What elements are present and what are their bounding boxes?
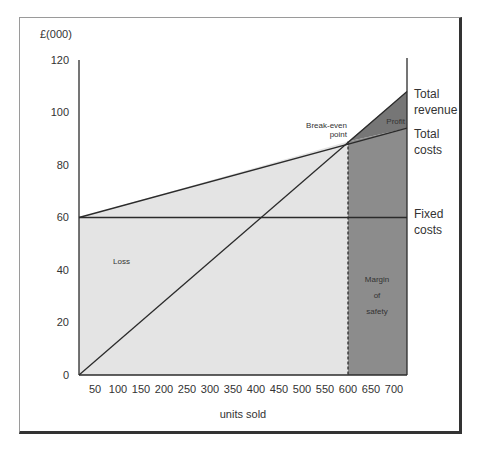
svg-text:200: 200: [155, 383, 173, 395]
break-even-point-label: Break-even point: [306, 121, 348, 139]
svg-text:Fixed: Fixed: [414, 207, 443, 221]
svg-text:150: 150: [132, 383, 150, 395]
x-axis-label: units sold: [220, 408, 266, 420]
svg-text:650: 650: [362, 383, 380, 395]
svg-text:Total: Total: [414, 87, 439, 101]
svg-text:costs: costs: [414, 223, 442, 237]
svg-text:250: 250: [178, 383, 196, 395]
svg-text:40: 40: [57, 264, 69, 276]
total-revenue-label: Total revenue: [414, 87, 458, 117]
svg-text:700: 700: [385, 383, 403, 395]
svg-text:550: 550: [316, 383, 334, 395]
svg-text:450: 450: [270, 383, 288, 395]
svg-text:60: 60: [57, 211, 69, 223]
svg-text:20: 20: [57, 316, 69, 328]
svg-text:500: 500: [293, 383, 311, 395]
margin-of-safety-region: [348, 128, 407, 375]
svg-text:600: 600: [339, 383, 357, 395]
x-tick-labels: 50 100 150 200 250 300 350 400 450 500 5…: [89, 383, 403, 395]
svg-text:50: 50: [89, 383, 101, 395]
svg-text:of: of: [374, 291, 381, 300]
svg-text:revenue: revenue: [414, 103, 458, 117]
y-tick-labels: 120 100 80 60 40 20 0: [51, 54, 69, 381]
profit-label: Profit: [386, 117, 405, 126]
svg-text:Margin: Margin: [365, 275, 389, 284]
svg-text:0: 0: [63, 369, 69, 381]
loss-label: Loss: [113, 257, 130, 266]
svg-text:400: 400: [247, 383, 265, 395]
svg-text:100: 100: [109, 383, 127, 395]
total-costs-label: Total costs: [414, 127, 442, 157]
svg-text:120: 120: [51, 54, 69, 66]
svg-text:300: 300: [201, 383, 219, 395]
svg-text:80: 80: [57, 159, 69, 171]
break-even-chart: £(000) 120 100 80 60 40 20 0 50 100 150 …: [0, 0, 482, 453]
svg-text:100: 100: [51, 106, 69, 118]
svg-text:point: point: [330, 130, 348, 139]
svg-text:Total: Total: [414, 127, 439, 141]
fixed-costs-label: Fixed costs: [414, 207, 443, 237]
svg-text:Break-even: Break-even: [306, 121, 347, 130]
svg-text:costs: costs: [414, 143, 442, 157]
svg-text:safety: safety: [366, 307, 387, 316]
svg-text:350: 350: [224, 383, 242, 395]
y-axis-label: £(000): [40, 28, 72, 40]
